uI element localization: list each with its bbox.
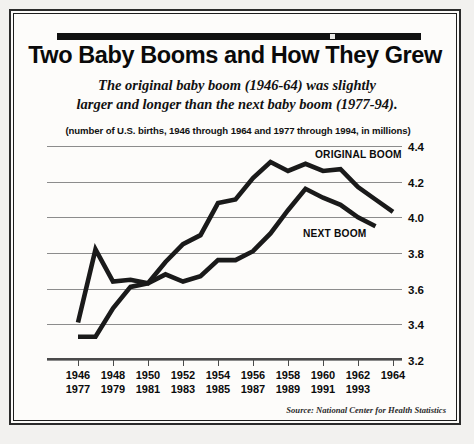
x-tick-label-original-boom: 1958 [268, 369, 308, 381]
x-tick-label-original-boom: 1950 [128, 369, 168, 381]
x-tick-label-next-boom: 1991 [303, 383, 343, 395]
x-tick-label-original-boom: 1960 [303, 369, 343, 381]
source-credit: Source: National Center for Health Stati… [233, 405, 446, 415]
x-axis-line [47, 358, 402, 360]
x-tick-label-original-boom: 1952 [163, 369, 203, 381]
y-tick-label: 3.8 [408, 248, 442, 260]
series-line-next-boom [78, 189, 376, 337]
x-tick-label-next-boom: 1989 [268, 383, 308, 395]
x-tick [393, 360, 394, 366]
x-tick [148, 360, 149, 366]
x-tick [78, 360, 79, 366]
x-tick [288, 360, 289, 366]
y-tick-label: 4.4 [408, 141, 442, 153]
x-tick-label-next-boom: 1987 [233, 383, 273, 395]
x-tick-label-original-boom: 1954 [198, 369, 238, 381]
line-chart: 4.44.24.03.83.63.43.2 194619771948197919… [0, 0, 474, 444]
series-paths [47, 146, 402, 360]
x-tick [113, 360, 114, 366]
x-tick-label-original-boom: 1946 [58, 369, 98, 381]
x-tick [323, 360, 324, 366]
x-tick-label-original-boom: 1964 [373, 369, 413, 381]
y-tick-label: 4.2 [408, 177, 442, 189]
x-tick-label-next-boom: 1983 [163, 383, 203, 395]
x-tick [218, 360, 219, 366]
screenshot-frame: Two Baby Booms and How They Grew The ori… [0, 0, 474, 444]
y-tick-label: 3.6 [408, 284, 442, 296]
x-tick-label-next-boom: 1977 [58, 383, 98, 395]
series-label-next-boom: NEXT BOOM [303, 228, 367, 239]
x-tick-label-original-boom: 1956 [233, 369, 273, 381]
series-line-original-boom [78, 162, 393, 322]
x-tick [253, 360, 254, 366]
y-tick-label: 4.0 [408, 212, 442, 224]
x-tick-label-next-boom: 1981 [128, 383, 168, 395]
x-tick-label-next-boom: 1979 [93, 383, 133, 395]
x-tick [183, 360, 184, 366]
plot-area [47, 146, 402, 360]
x-tick-label-original-boom: 1962 [338, 369, 378, 381]
x-tick-label-original-boom: 1948 [93, 369, 133, 381]
x-tick-label-next-boom: 1993 [338, 383, 378, 395]
gridline [47, 360, 402, 361]
x-tick [358, 360, 359, 366]
y-tick-label: 3.2 [408, 355, 442, 367]
y-tick-label: 3.4 [408, 319, 442, 331]
x-tick-label-next-boom: 1985 [198, 383, 238, 395]
series-label-original-boom: ORIGINAL BOOM [315, 149, 402, 160]
